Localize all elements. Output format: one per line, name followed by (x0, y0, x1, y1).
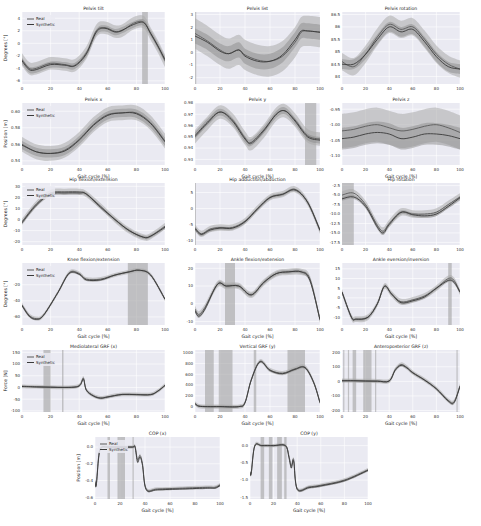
svg-text:-1.0: -1.0 (240, 477, 248, 482)
svg-text:80: 80 (292, 414, 298, 419)
svg-text:60: 60 (267, 167, 273, 172)
svg-text:20: 20 (271, 501, 277, 506)
x-axis-ticks: 020406080100 (21, 86, 170, 91)
y-axis-label: Degrees [°] (3, 35, 8, 62)
svg-text:20: 20 (363, 167, 369, 172)
chart-pelvis-x: Pelvis x0204060801000.540.560.580.60Gait… (0, 95, 171, 181)
y-axis-ticks: -1.5-1.0-0.50.0 (240, 443, 248, 500)
chart-title: Pelvis z (393, 97, 411, 102)
y-axis-ticks: -100-50050100150 (11, 350, 21, 413)
x-axis-ticks: 020406080100 (194, 414, 325, 419)
svg-text:80: 80 (292, 86, 298, 91)
y-axis-ticks: -20-100102030 (13, 184, 20, 244)
svg-text:0: 0 (337, 295, 340, 300)
svg-text:0.60: 0.60 (11, 109, 20, 114)
legend-label: Real (36, 107, 45, 112)
svg-text:100: 100 (161, 327, 169, 332)
x-axis-label: Gait cycle [%] (241, 334, 273, 339)
y-axis-ticks: -6-4-2024 (16, 16, 20, 84)
y-axis-ticks: 0.540.560.580.60 (11, 109, 20, 164)
svg-text:40: 40 (242, 414, 248, 419)
chart-vertical-grf: Vertical GRF (y)020406080100020040060080… (173, 342, 326, 428)
svg-text:0: 0 (337, 379, 340, 384)
svg-text:10: 10 (335, 276, 341, 281)
x-axis-ticks: 020406080100 (341, 86, 465, 91)
chart-mediolateral-grf: Mediolateral GRF (x)020406080100-100-500… (0, 342, 171, 428)
svg-text:0: 0 (21, 247, 24, 252)
chart-ankle-flexion: Ankle flexion/extension020406080100-1001… (173, 255, 326, 341)
svg-text:60: 60 (318, 501, 324, 506)
svg-text:0: 0 (194, 86, 197, 91)
legend-label: Real (36, 16, 45, 21)
x-axis-ticks: 020406080100 (21, 414, 170, 419)
svg-text:60: 60 (410, 414, 416, 419)
svg-text:60: 60 (105, 247, 111, 252)
svg-text:60: 60 (105, 414, 111, 419)
x-axis-ticks: 020406080100 (341, 327, 465, 332)
chart-title: Ankle eversion/inversion (373, 257, 430, 262)
x-axis-ticks: 020406080100 (249, 501, 373, 506)
chart-pelvis-z: Pelvis z020406080100-1.10-1.05-1.00-0.95… (320, 95, 466, 181)
svg-text:-1.00: -1.00 (330, 122, 341, 127)
legend-label: Real (36, 267, 45, 272)
x-axis-ticks: 020406080100 (341, 414, 465, 419)
svg-text:20: 20 (48, 414, 54, 419)
svg-text:15: 15 (335, 266, 341, 271)
highlight-band (448, 263, 452, 325)
legend-label: Synthetic (36, 22, 55, 27)
svg-text:60: 60 (267, 86, 273, 91)
y-axis-ticks: -1.10-1.05-1.00-0.95 (330, 107, 341, 159)
plot-area (342, 263, 460, 325)
svg-text:0: 0 (341, 414, 344, 419)
svg-text:-10.0: -10.0 (330, 211, 341, 216)
svg-text:20: 20 (48, 86, 54, 91)
svg-text:60: 60 (410, 167, 416, 172)
svg-text:-20: -20 (13, 282, 20, 287)
svg-text:80: 80 (292, 247, 298, 252)
y-axis-ticks: -0.6-0.4-0.20.0 (85, 444, 93, 499)
x-axis-ticks: 020406080100 (194, 167, 325, 172)
y-axis-ticks: -1001020 (186, 266, 193, 324)
svg-text:80: 80 (192, 501, 198, 506)
svg-text:0: 0 (341, 86, 344, 91)
svg-text:60: 60 (105, 327, 111, 332)
legend-label: Synthetic (36, 273, 55, 278)
highlight-band (456, 350, 457, 412)
svg-text:400: 400 (185, 382, 193, 387)
svg-text:40: 40 (387, 247, 393, 252)
svg-text:60: 60 (267, 247, 273, 252)
x-axis-ticks: 020406080100 (21, 327, 170, 332)
svg-text:-100: -100 (331, 393, 341, 398)
svg-text:0.93: 0.93 (184, 157, 193, 162)
x-axis-label: Gait cycle [%] (77, 334, 109, 339)
svg-text:84.5: 84.5 (331, 62, 340, 67)
svg-text:20: 20 (217, 167, 223, 172)
svg-text:-50: -50 (13, 397, 20, 402)
chart-title: COP (x) (149, 431, 167, 436)
svg-text:3: 3 (190, 12, 193, 17)
svg-text:0.94: 0.94 (184, 145, 193, 150)
x-axis-label: Gait cycle [%] (241, 421, 273, 426)
svg-text:40: 40 (295, 501, 301, 506)
chart-title: Hip rotation (387, 177, 414, 182)
svg-text:-6: -6 (16, 78, 20, 83)
x-axis-label: Gait cycle [%] (385, 421, 417, 426)
x-axis-ticks: 020406080100 (94, 501, 225, 506)
svg-text:0: 0 (190, 301, 193, 306)
svg-text:20: 20 (217, 414, 223, 419)
svg-text:80: 80 (292, 167, 298, 172)
svg-text:-1.10: -1.10 (330, 153, 341, 158)
svg-text:40: 40 (77, 414, 83, 419)
svg-text:4: 4 (17, 16, 20, 21)
svg-text:0: 0 (21, 167, 24, 172)
svg-text:0: 0 (17, 385, 20, 390)
svg-text:60: 60 (167, 501, 173, 506)
svg-text:40: 40 (387, 327, 393, 332)
x-axis-ticks: 020406080100 (194, 327, 325, 332)
svg-text:20: 20 (217, 327, 223, 332)
svg-text:-10: -10 (13, 228, 20, 233)
y-axis-ticks: -200-1000100200 (331, 350, 341, 413)
chart-title: Pelvis tilt (83, 6, 104, 11)
svg-text:0.95: 0.95 (184, 134, 193, 139)
svg-text:40: 40 (242, 247, 248, 252)
